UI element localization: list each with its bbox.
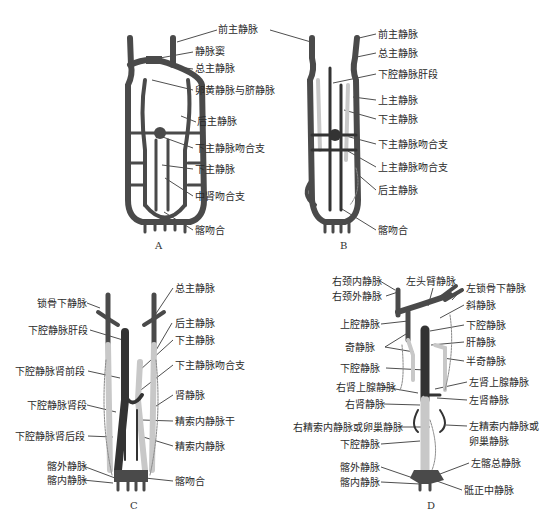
label-b-iliac-anastomosis: 髂吻合 <box>378 225 408 237</box>
label-b-supracardinal-anastomosis: 上主静脉吻合支 <box>378 162 448 174</box>
label-c-iliac-anastomosis: 髂吻合 <box>175 476 205 488</box>
label-d-ivc-lower: 下腔静脉 <box>340 439 380 451</box>
label-c-ivc-postrenal: 下腔静脉肾后段 <box>15 431 85 443</box>
label-c-subclavian: 锁骨下静脉 <box>37 298 87 310</box>
label-a-mesonephric-anastomosis: 中肾吻合支 <box>195 191 245 203</box>
panel-a-veins <box>128 38 204 232</box>
label-a-iliac-anastomosis: 髂吻合 <box>195 225 225 237</box>
panel-b-veins <box>307 38 358 232</box>
label-d-left-gonadal-2: 卵巢静脉 <box>469 436 509 448</box>
label-d-oblique: 斜静脉 <box>466 300 496 312</box>
label-c-ivc-prerenal: 下腔静脉肾前段 <box>15 366 85 378</box>
label-a-sinus-venosus: 静脉窦 <box>195 46 225 58</box>
label-d-azygos: 奇静脉 <box>345 342 375 354</box>
label-d-median-sacral: 骶正中静脉 <box>464 485 514 497</box>
label-b-common-cardinal: 总主静脉 <box>378 48 418 60</box>
label-c-renal-vein: 肾静脉 <box>175 390 205 402</box>
label-c-ivc-renal: 下腔静脉肾段 <box>27 400 87 412</box>
label-d-left-gonadal-1: 左精索内静脉或 <box>469 421 539 433</box>
label-d-hemiazygos: 半奇静脉 <box>466 356 506 368</box>
label-d-external-iliac: 髂外静脉 <box>340 462 380 474</box>
label-c-subcardinal-anastomosis: 下主静脉吻合支 <box>175 360 245 372</box>
label-c-subcardinal: 下主静脉 <box>175 335 215 347</box>
label-c-external-iliac: 髂外静脉 <box>47 461 87 473</box>
label-d-left-suprarenal: 左肾上腺静脉 <box>469 377 529 389</box>
label-c-posterior-cardinal: 后主静脉 <box>175 318 215 330</box>
label-d-right-internal-jugular: 右颈内静脉 <box>332 276 382 288</box>
label-b-subcardinal-anastomosis: 下主静脉吻合支 <box>378 139 448 151</box>
label-c-spermatic-trunk: 精索内静脉干 <box>175 416 235 428</box>
panel-letter-c: C <box>130 500 138 511</box>
panel-letter-a: A <box>155 240 162 251</box>
label-a-vitelline-umbilical: 卵黄静脉与脐静脉 <box>195 85 275 97</box>
diagram-canvas <box>0 0 560 530</box>
label-b-anterior-cardinal: 前主静脉 <box>378 29 418 41</box>
panel-letter-b: B <box>340 240 347 251</box>
label-d-left-renal: 左肾静脉 <box>469 395 509 407</box>
label-d-hepatic: 肝静脉 <box>466 337 496 349</box>
label-d-right-renal: 右肾静脉 <box>345 399 385 411</box>
label-b-subcardinal: 下主静脉 <box>378 114 418 126</box>
label-d-right-gonadal: 右精索内静脉或卵巢静脉 <box>293 422 403 434</box>
panel-c-veins <box>98 295 164 490</box>
panel-letter-d: D <box>427 500 435 511</box>
label-d-ivc-right: 下腔静脉 <box>466 320 506 332</box>
label-a-anterior-cardinal: 前主静脉 <box>218 24 258 36</box>
label-c-ivc-hepatic: 下腔静脉肝段 <box>28 325 88 337</box>
label-a-subcardinal-anastomosis: 下主静脉吻合支 <box>195 143 265 155</box>
label-d-right-suprarenal: 右肾上腺静脉 <box>336 382 396 394</box>
label-a-common-cardinal: 总主静脉 <box>195 63 235 75</box>
label-a-posterior-cardinal: 后主静脉 <box>197 116 237 128</box>
label-c-internal-iliac: 髂内静脉 <box>47 475 87 487</box>
label-d-right-external-jugular: 右颈外静脉 <box>332 291 382 303</box>
label-d-ivc-upper: 下腔静脉 <box>340 363 380 375</box>
label-c-spermatic: 精索内静脉 <box>175 441 225 453</box>
label-c-common-cardinal: 总主静脉 <box>175 283 215 295</box>
label-d-left-subclavian: 左锁骨下静脉 <box>466 283 526 295</box>
label-d-internal-iliac: 髂内静脉 <box>340 477 380 489</box>
label-d-svc: 上腔静脉 <box>340 319 380 331</box>
label-d-left-brachiocephalic: 左头臂静脉 <box>406 276 456 288</box>
label-b-posterior-cardinal: 后主静脉 <box>378 185 418 197</box>
label-b-ivc-hepatic: 下腔静脉肝段 <box>378 69 438 81</box>
panel-d-veins <box>398 286 462 490</box>
label-d-left-common-iliac: 左髂总静脉 <box>471 458 521 470</box>
label-b-supracardinal: 上主静脉 <box>378 95 418 107</box>
label-a-subcardinal: 下主静脉 <box>195 164 235 176</box>
